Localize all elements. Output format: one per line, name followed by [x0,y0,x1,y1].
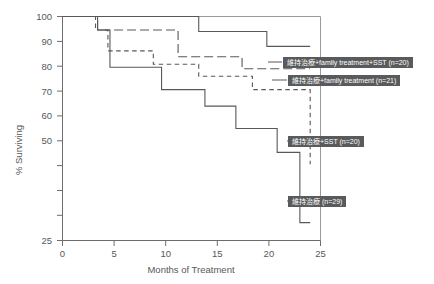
plot-frame [62,17,321,241]
survival-curve [63,17,311,47]
y-tick-label: 100 [36,11,52,22]
callout-label-maintenance-family: 維持治療+family treatment (n=21) [288,75,400,86]
y-tick-label: 50 [41,135,52,146]
y-tick-label: 80 [41,61,52,72]
y-axis [57,17,63,241]
y-tick-label: 25 [41,235,52,246]
x-axis [63,241,321,247]
callout-label-maintenance-family-sst: 維持治療+family treatment+SST (n=20) [283,57,413,68]
callout-label-maintenance: 維持治療 (n=29) [288,196,346,207]
y-tick-label: 60 [41,110,52,121]
x-axis-title: Months of Treatment [147,264,234,275]
x-tick-label: 20 [264,248,275,259]
y-axis-title: % Surviving [13,125,24,175]
y-tick-label: 90 [41,36,52,47]
survival-curve [63,17,311,223]
x-tick-label: 15 [212,248,223,259]
x-tick-label: 0 [60,248,65,259]
survival-curve [63,17,311,69]
survival-curve [63,17,311,165]
callout-label-maintenance-sst: 維持治療+SST (n=20) [288,136,364,147]
x-tick-label: 10 [160,248,171,259]
survival-curves [63,17,311,223]
x-tick-label: 5 [111,248,116,259]
y-tick-labels: 100 90 80 70 60 50 25 [36,11,52,246]
y-tick-label: 70 [41,86,52,97]
x-tick-label: 25 [315,248,326,259]
survival-chart-figure: 100 90 80 70 60 50 25 % Surviving 0 5 10… [0,0,434,284]
chart-canvas: 100 90 80 70 60 50 25 % Surviving 0 5 10… [0,0,434,284]
x-tick-labels: 0 5 10 15 20 25 [60,248,326,259]
